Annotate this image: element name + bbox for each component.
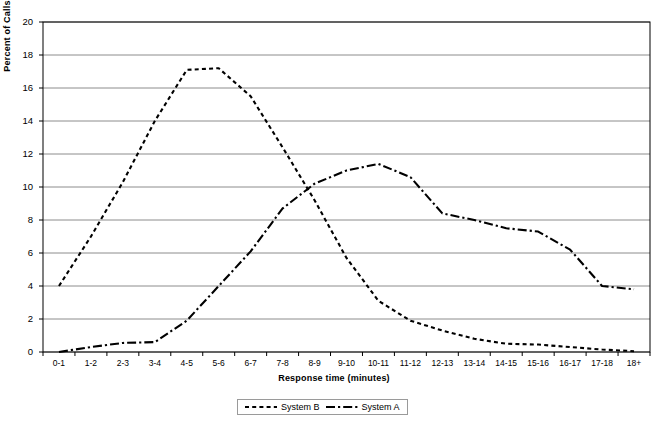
y-tick-label: 4 bbox=[11, 281, 33, 291]
gridlines bbox=[43, 22, 650, 352]
x-axis-title: Response time (minutes) bbox=[0, 373, 668, 383]
legend-entry-system-b: System B bbox=[245, 402, 320, 412]
y-tick-label: 12 bbox=[11, 149, 33, 159]
legend-swatch-dashed-icon bbox=[245, 404, 277, 410]
legend-label: System A bbox=[362, 402, 400, 412]
series-line-system-b bbox=[59, 68, 634, 351]
y-tick-label: 20 bbox=[11, 17, 33, 27]
chart-container: Percent of Calls 02468101214161820 0-11-… bbox=[0, 0, 668, 421]
legend-label: System B bbox=[281, 402, 320, 412]
y-tick-label: 6 bbox=[11, 248, 33, 258]
series-lines bbox=[59, 68, 634, 352]
chart-legend: System BSystem A bbox=[237, 399, 408, 415]
y-tick-label: 8 bbox=[11, 215, 33, 225]
y-tick-label: 18 bbox=[11, 50, 33, 60]
y-tick-label: 2 bbox=[11, 314, 33, 324]
x-axis-tickmarks bbox=[43, 352, 650, 356]
y-tick-label: 14 bbox=[11, 116, 33, 126]
y-axis-tickmarks bbox=[39, 22, 43, 352]
y-tick-label: 16 bbox=[11, 83, 33, 93]
legend-entry-system-a: System A bbox=[326, 402, 400, 412]
legend-swatch-dash-dot-icon bbox=[326, 404, 358, 410]
y-tick-label: 10 bbox=[11, 182, 33, 192]
x-tick-label: 18+ bbox=[614, 358, 654, 368]
y-tick-label: 0 bbox=[11, 347, 33, 357]
